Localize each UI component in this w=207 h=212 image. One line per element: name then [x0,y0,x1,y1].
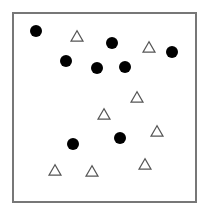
hollow-triangle-marker [143,42,155,52]
triangle-group [49,31,163,176]
filled-circle-marker [67,138,79,150]
scatter-diagram [0,0,207,212]
hollow-triangle-marker [98,109,110,119]
filled-circle-marker [106,37,118,49]
hollow-triangle-marker [151,126,163,136]
filled-circle-marker [30,25,42,37]
filled-circle-marker [60,55,72,67]
hollow-triangle-marker [131,92,143,102]
frame-border [13,13,196,202]
hollow-triangle-marker [86,166,98,176]
hollow-triangle-marker [71,31,83,41]
filled-circle-marker [114,132,126,144]
filled-circle-marker [91,62,103,74]
hollow-triangle-marker [49,165,61,175]
filled-circle-marker [119,61,131,73]
hollow-triangle-marker [139,159,151,169]
filled-circle-marker [166,46,178,58]
